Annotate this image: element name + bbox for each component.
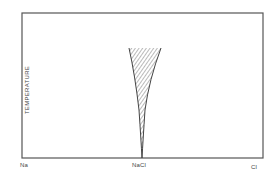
y-axis-label: TEMPERATURE <box>24 66 30 114</box>
x-label-cl: Cl <box>251 164 257 170</box>
x-label-na: Na <box>20 162 28 168</box>
phase-diagram <box>0 0 275 179</box>
x-label-nacl: NaCl <box>132 162 146 168</box>
hatched-region <box>129 48 161 158</box>
